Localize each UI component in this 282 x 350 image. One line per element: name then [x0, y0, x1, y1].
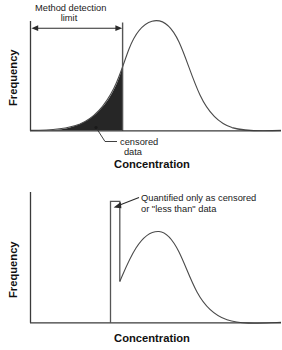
method-detection-limit-arrow	[31, 25, 122, 31]
figure-container: Method detection limit censored data Fre…	[0, 0, 282, 350]
top-panel: Method detection limit censored data Fre…	[7, 3, 281, 171]
top-x-axis-title: Concentration	[114, 158, 190, 170]
figure-svg: Method detection limit censored data Fre…	[0, 0, 282, 350]
quantified-label-line2: or "less than" data	[141, 204, 217, 214]
method-detection-limit-label-line1: Method detection	[35, 3, 106, 13]
censored-data-label-line2: data	[124, 147, 143, 157]
quantified-annotation-arrow	[114, 198, 139, 209]
censored-data-label-line1: censored	[120, 137, 158, 147]
bottom-y-axis-title: Frequency	[7, 241, 19, 298]
bottom-x-axis-title: Concentration	[114, 332, 190, 344]
quantified-label-line1: Quantified only as censored	[141, 193, 256, 203]
reported-distribution-curve	[120, 231, 281, 323]
method-detection-limit-label-line2: limit	[61, 13, 78, 23]
frequency-distribution-curve	[31, 21, 281, 131]
bottom-panel: Quantified only as censored or "less tha…	[7, 192, 281, 344]
top-y-axis-title: Frequency	[7, 49, 19, 106]
censored-spike	[111, 201, 120, 322]
